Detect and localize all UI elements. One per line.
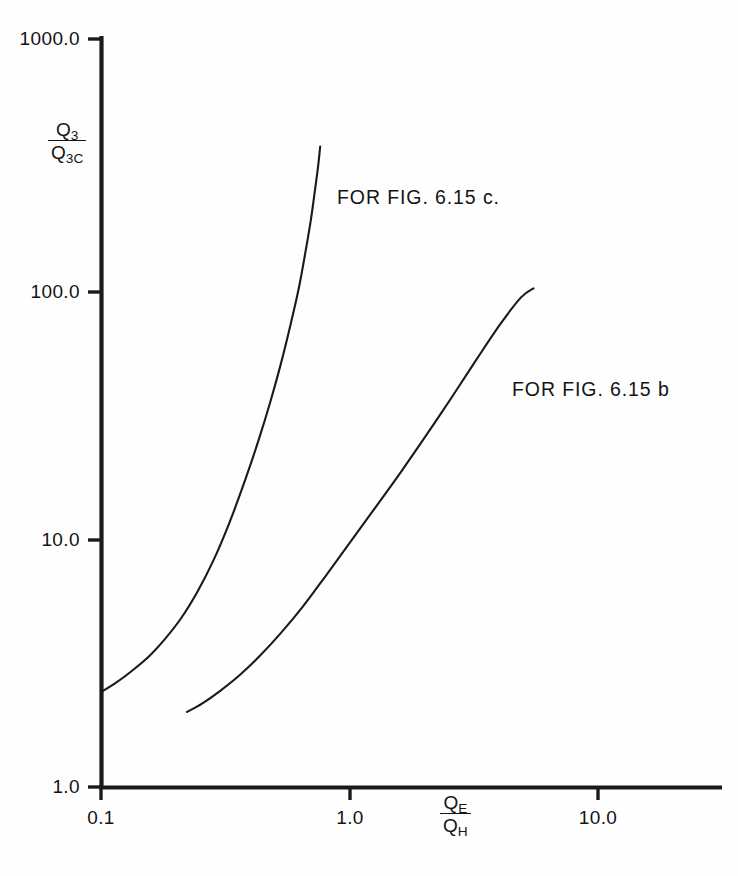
x-tick-label-10p0: 10.0 — [579, 807, 618, 829]
x-tick-label-1p0: 1.0 — [336, 807, 364, 829]
annotation-curve-b: FOR FIG. 6.15 b — [512, 378, 670, 401]
y-tick-label-100: 100.0 — [0, 281, 80, 303]
figure-canvas: 1000.0 100.0 10.0 1.0 0.1 1.0 10.0 Q3 Q3… — [0, 0, 738, 876]
x-axis-title-numerator: QE — [440, 793, 471, 814]
axis-lines — [99, 36, 722, 789]
x-axis-title: QE QH — [440, 793, 471, 835]
plot-area — [0, 0, 738, 876]
curve-fig-6-15-c — [101, 147, 320, 693]
y-axis-title-denominator: Q3C — [48, 141, 86, 162]
x-axis-title-denominator: QH — [440, 814, 471, 835]
y-axis-title-numerator: Q3 — [48, 120, 86, 141]
x-tick-label-0p1: 0.1 — [87, 807, 115, 829]
data-curves — [101, 147, 533, 712]
annotation-curve-c: FOR FIG. 6.15 c. — [337, 186, 500, 209]
y-axis-title: Q3 Q3C — [48, 120, 86, 162]
y-tick-label-10: 10.0 — [0, 529, 80, 551]
y-tick-label-1: 1.0 — [0, 776, 80, 798]
y-tick-label-1000: 1000.0 — [0, 28, 80, 50]
x-axis-title-fraction: QE QH — [440, 793, 471, 835]
y-axis-title-fraction: Q3 Q3C — [48, 120, 86, 162]
y-axis-ticks — [88, 39, 101, 787]
